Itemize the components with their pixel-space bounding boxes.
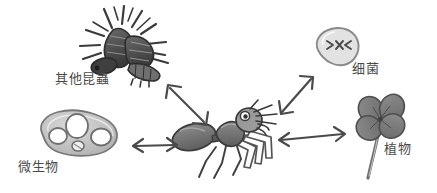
diagram-illustration (0, 0, 437, 193)
clover-plant-icon (352, 90, 410, 178)
amoeba-blob-icon (41, 110, 117, 155)
node-label-bacteria: 细菌 (352, 62, 379, 75)
node-label-plants: 植物 (384, 142, 411, 155)
ant-icon (170, 100, 277, 178)
node-label-microorganisms: 微生物 (18, 160, 59, 173)
arrow-ant-other-insects (166, 85, 208, 125)
arrow-ant-microorganisms (133, 138, 177, 152)
diagram-canvas: 其他昆蟲 微生物 细菌 植物 (0, 0, 437, 193)
node-label-other-insects: 其他昆蟲 (55, 72, 109, 85)
bacteria-cell-icon (317, 28, 359, 65)
arrow-ant-bacteria (279, 76, 313, 114)
arrow-ant-plants (279, 127, 345, 146)
